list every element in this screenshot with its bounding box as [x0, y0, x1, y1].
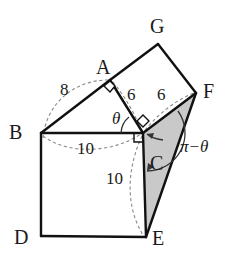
measure-label-BC: 10: [77, 140, 94, 157]
measure-label-CF: 6: [157, 86, 166, 103]
measure-label-CE: 10: [106, 170, 123, 187]
measure-label-BA: 8: [60, 81, 69, 98]
geometry-figure: B A C D E F G 8 6 6 10 10 θ π−θ: [0, 0, 239, 265]
vertex-label-F: F: [203, 81, 214, 101]
vertex-label-A: A: [96, 57, 110, 77]
edge-DE: [41, 236, 146, 237]
angle-label-pi-minus-theta: π−θ: [180, 138, 208, 155]
figure-canvas: [0, 0, 239, 265]
vertex-label-G: G: [150, 16, 164, 36]
vertex-label-E: E: [152, 228, 164, 248]
vertex-label-D: D: [14, 227, 28, 247]
measure-label-AC: 6: [127, 86, 136, 103]
vertex-label-C: C: [150, 153, 163, 173]
angle-label-theta: θ: [112, 110, 120, 127]
vertex-label-B: B: [9, 122, 22, 142]
